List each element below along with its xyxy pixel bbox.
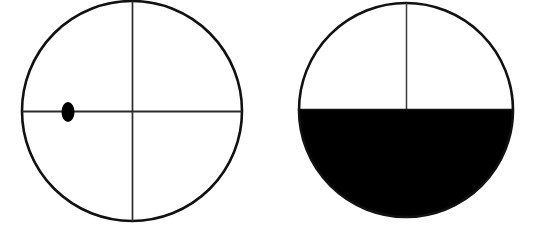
right-circle-group: [295, 1, 517, 221]
left-circle-group: [20, 0, 244, 223]
right-circle-lower-half-fill: [295, 110, 517, 221]
figure-svg: [0, 0, 535, 239]
figure-canvas: [0, 0, 535, 239]
dot-marker: [62, 102, 75, 122]
